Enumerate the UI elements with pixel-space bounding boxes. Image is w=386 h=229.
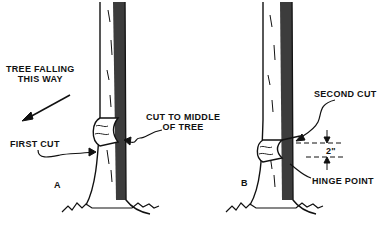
middle-cut-line-2: OF TREE <box>146 122 220 132</box>
dimension-label: 2" <box>326 146 336 156</box>
tree-felling-diagram: TREE FALLING THIS WAY FIRST CUT CUT TO M… <box>0 0 386 229</box>
falling-direction-arrow <box>22 95 70 121</box>
panel-label-a: A <box>54 180 61 190</box>
first-cut-label: FIRST CUT <box>10 139 60 149</box>
tree-a <box>62 2 159 214</box>
second-cut-leader <box>296 100 335 141</box>
second-cut-label: SECOND CUT <box>314 89 377 99</box>
falling-label-line-1: TREE FALLING <box>6 64 75 74</box>
falling-direction-label: TREE FALLING THIS WAY <box>6 64 75 84</box>
middle-cut-label: CUT TO MIDDLE OF TREE <box>146 112 220 132</box>
first-cut-leader <box>38 148 96 157</box>
middle-cut-leader <box>124 130 162 145</box>
panel-label-b: B <box>241 178 248 188</box>
hinge-point-label: HINGE POINT <box>312 176 374 186</box>
falling-label-line-2: THIS WAY <box>6 74 75 84</box>
middle-cut-line-1: CUT TO MIDDLE <box>146 112 220 122</box>
